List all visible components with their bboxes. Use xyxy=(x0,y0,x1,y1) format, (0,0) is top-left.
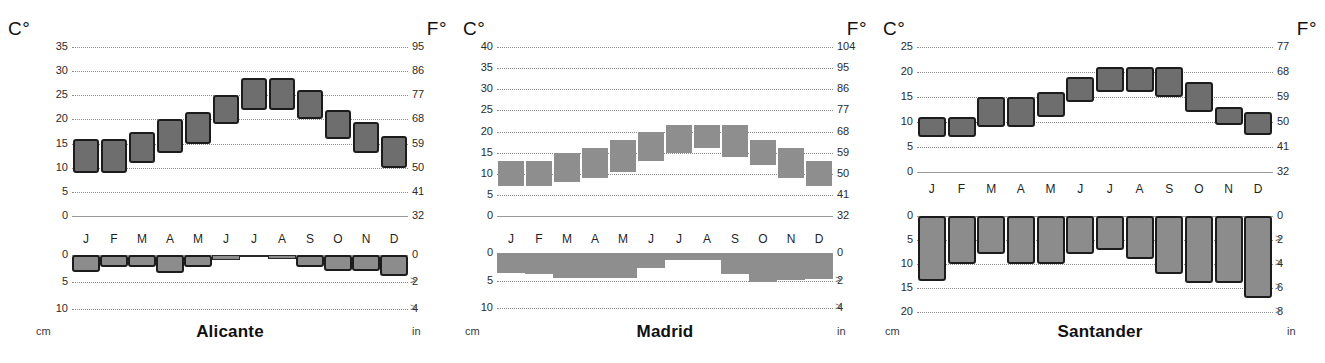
panel-madrid: C° F° 4010435953086257720681559105054103… xyxy=(455,0,875,363)
city-label-madrid: Madrid xyxy=(575,322,755,342)
precipitation-bar xyxy=(1215,216,1243,283)
precipitation-bar xyxy=(1096,216,1124,250)
climate-chart-figure: C° F° 359530862577206815591050541032JFMA… xyxy=(0,0,1325,363)
precipitation-bar xyxy=(805,253,833,279)
gridline-arrow-marker: > xyxy=(410,274,416,286)
madrid-precipitation-plot: 0052>104> xyxy=(455,0,875,363)
tick-label-cm: 20 xyxy=(879,305,913,317)
tick-label-cm: 10 xyxy=(459,301,493,313)
gridline-arrow-marker: > xyxy=(1275,280,1281,292)
precipitation-bar xyxy=(948,216,976,264)
tick-label-in: 0 xyxy=(412,248,446,260)
precipitation-bar xyxy=(918,216,946,281)
santander-unit-in: in xyxy=(1287,325,1296,337)
precipitation-bar xyxy=(1244,216,1272,298)
city-label-alicante: Alicante xyxy=(140,322,320,342)
precipitation-bar xyxy=(1185,216,1213,283)
gridline-arrow-marker: > xyxy=(835,300,841,312)
precipitation-bar xyxy=(380,255,408,276)
tick-label-in: 0 xyxy=(837,246,871,258)
tick-label-cm: 0 xyxy=(34,248,68,260)
tick-label-cm: 0 xyxy=(879,209,913,221)
precipitation-bar xyxy=(128,255,156,267)
gridline-arrow-marker: > xyxy=(410,301,416,313)
precipitation-bar xyxy=(553,253,581,278)
tick-label-cm: 10 xyxy=(879,257,913,269)
alicante-precipitation-plot: 0052>104> xyxy=(0,0,455,363)
precipitation-bar xyxy=(1007,216,1035,264)
panel-alicante: C° F° 359530862577206815591050541032JFMA… xyxy=(0,0,455,363)
precipitation-bar xyxy=(352,255,380,271)
tick-label-in: 6 xyxy=(1277,281,1311,293)
precipitation-bar xyxy=(609,253,637,278)
gridline-arrow-marker: > xyxy=(1275,232,1281,244)
tick-label-cm: 0 xyxy=(459,246,493,258)
precipitation-bar xyxy=(296,255,324,267)
gridline xyxy=(497,281,833,282)
precipitation-bar xyxy=(637,253,665,268)
gridline xyxy=(917,312,1273,313)
precipitation-bar xyxy=(721,253,749,274)
precipitation-bar xyxy=(72,255,100,272)
madrid-unit-in: in xyxy=(837,325,846,337)
gridline xyxy=(497,308,833,309)
gridline xyxy=(72,282,408,283)
tick-label-cm: 5 xyxy=(879,233,913,245)
tick-label-cm: 5 xyxy=(34,275,68,287)
tick-label-in: 4 xyxy=(1277,257,1311,269)
gridline xyxy=(917,288,1273,289)
tick-label-in: 0 xyxy=(1277,209,1311,221)
precipitation-bar xyxy=(693,253,721,260)
precipitation-bar xyxy=(212,255,240,260)
tick-label-in: 2 xyxy=(412,275,446,287)
alicante-unit-in: in xyxy=(412,325,421,337)
precipitation-bar xyxy=(240,255,268,257)
precipitation-bar xyxy=(581,253,609,278)
precipitation-bar xyxy=(977,216,1005,254)
gridline-arrow-marker: > xyxy=(1275,256,1281,268)
precipitation-bar xyxy=(497,253,525,273)
precipitation-bar xyxy=(268,255,296,259)
gridline-arrow-marker: > xyxy=(835,273,841,285)
panel-santander: C° F° 2577206815591050541032JFMAMJJASOND… xyxy=(875,0,1325,363)
precipitation-bar xyxy=(1155,216,1183,274)
madrid-unit-cm: cm xyxy=(465,325,480,337)
precipitation-bar xyxy=(324,255,352,271)
precipitation-bar xyxy=(156,255,184,273)
precipitation-bar xyxy=(1037,216,1065,264)
gridline xyxy=(72,309,408,310)
santander-precipitation-plot: 0052>104>156>208> xyxy=(875,0,1325,363)
tick-label-in: 2 xyxy=(1277,233,1311,245)
tick-label-in: 8 xyxy=(1277,305,1311,317)
tick-label-in: 2 xyxy=(837,274,871,286)
precipitation-bar xyxy=(100,255,128,267)
alicante-unit-cm: cm xyxy=(36,325,51,337)
precipitation-bar xyxy=(749,253,777,282)
tick-label-cm: 10 xyxy=(34,302,68,314)
precipitation-bar xyxy=(1066,216,1094,254)
tick-label-cm: 5 xyxy=(459,274,493,286)
gridline-arrow-marker: > xyxy=(1275,304,1281,316)
precipitation-bar xyxy=(184,255,212,267)
tick-label-cm: 15 xyxy=(879,281,913,293)
precipitation-bar xyxy=(665,253,693,260)
santander-unit-cm: cm xyxy=(885,325,900,337)
precipitation-bar xyxy=(525,253,553,274)
precipitation-bar xyxy=(777,253,805,280)
tick-label-in: 4 xyxy=(412,302,446,314)
tick-label-in: 4 xyxy=(837,301,871,313)
precipitation-bar xyxy=(1126,216,1154,259)
city-label-santander: Santander xyxy=(1010,322,1190,342)
